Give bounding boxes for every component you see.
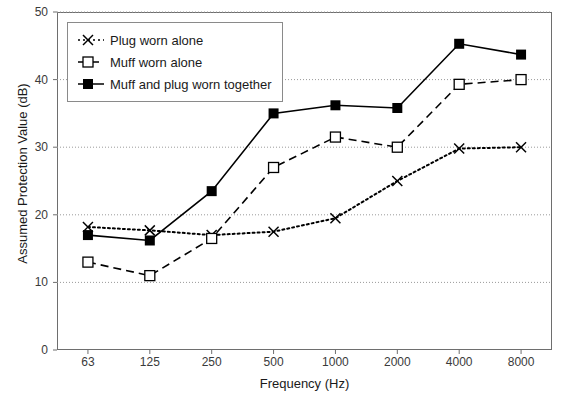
marker-filled-square [269, 108, 279, 118]
series-line [88, 147, 521, 235]
legend-item-label: Plug worn alone [110, 33, 203, 48]
marker-open-square [145, 271, 155, 281]
marker-filled-square [83, 79, 93, 89]
legend-marker-x-cross [76, 32, 106, 48]
marker-open-square [454, 79, 464, 89]
marker-open-square [392, 142, 402, 152]
marker-filled-square [330, 100, 340, 110]
x-tick-label: 250 [182, 355, 242, 369]
y-tick-label: 50 [8, 5, 48, 19]
chart-page: 01020304050 631252505001000200040008000 … [0, 0, 567, 399]
legend-item: Muff and plug worn together [76, 73, 272, 95]
marker-open-square [207, 233, 217, 243]
marker-open-square [516, 75, 526, 85]
legend-item: Muff worn alone [76, 51, 272, 73]
x-axis-title: Frequency (Hz) [57, 376, 552, 391]
marker-open-square [269, 162, 279, 172]
legend-marker-filled-square [76, 76, 106, 92]
x-tick-label: 500 [244, 355, 304, 369]
legend-item: Plug worn alone [76, 29, 272, 51]
chart-legend: Plug worn aloneMuff worn aloneMuff and p… [67, 22, 283, 102]
marker-filled-square [145, 235, 155, 245]
marker-filled-square [207, 186, 217, 196]
x-tick-label: 125 [120, 355, 180, 369]
legend-item-label: Muff and plug worn together [110, 77, 272, 92]
marker-open-square [330, 132, 340, 142]
x-tick-label: 1000 [305, 355, 365, 369]
y-axis-title: Assumed Protection Value (dB) [15, 24, 30, 324]
marker-filled-square [83, 230, 93, 240]
legend-marker-open-square [76, 54, 106, 70]
y-tick-label: 0 [8, 343, 48, 357]
x-tick-label: 2000 [367, 355, 427, 369]
marker-filled-square [516, 50, 526, 60]
marker-filled-square [454, 39, 464, 49]
marker-x-cross [392, 176, 402, 186]
x-tick-label: 63 [58, 355, 118, 369]
legend-item-label: Muff worn alone [110, 55, 202, 70]
x-tick-label: 8000 [491, 355, 551, 369]
marker-open-square [83, 57, 93, 67]
marker-filled-square [392, 103, 402, 113]
marker-open-square [83, 257, 93, 267]
x-tick-label: 4000 [429, 355, 489, 369]
